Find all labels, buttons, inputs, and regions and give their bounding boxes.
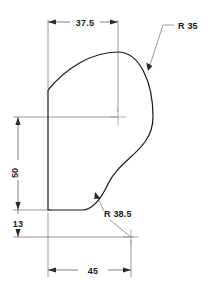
leader-r35-diagonal	[150, 25, 163, 65]
radius-label-r35: R 35	[178, 21, 198, 31]
dim-label-45: 45	[88, 266, 98, 276]
drawing-svg: 37.5 50 13 45 R 35 R 38.5	[0, 0, 212, 292]
dimension-lines	[15, 19, 131, 272]
cam-profile-outline	[48, 52, 153, 210]
arrowhead-50-top	[15, 117, 20, 125]
leader-lines	[94, 25, 174, 237]
arrowhead-37p5-left	[48, 19, 56, 24]
arrowhead-45-right	[123, 267, 131, 272]
dim-label-50: 50	[10, 168, 20, 178]
leader-r38-5-lower	[110, 220, 131, 237]
arrowhead-45-left	[48, 267, 56, 272]
center-marks	[110, 109, 139, 245]
dim-label-13: 13	[13, 219, 23, 229]
extension-lines	[13, 20, 134, 277]
dim-label-37p5: 37.5	[76, 18, 94, 28]
technical-drawing-canvas: 37.5 50 13 45 R 35 R 38.5	[0, 0, 212, 292]
arrowhead-37p5-right	[110, 19, 118, 24]
arrowhead-50-bottom	[15, 202, 20, 210]
arrowhead-13-bottom	[15, 229, 20, 237]
arrowhead-r35	[146, 63, 152, 71]
radius-label-r38-5: R 38.5	[104, 209, 132, 219]
